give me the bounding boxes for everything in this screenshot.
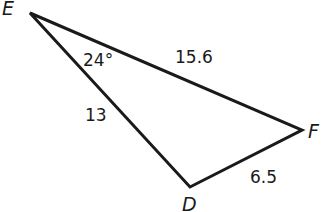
angle-label-e: 24° (83, 50, 113, 70)
triangle-edf (30, 13, 302, 187)
vertex-label-f: F (308, 120, 320, 142)
vertex-label-d: D (182, 193, 197, 212)
side-label-df: 6.5 (250, 167, 277, 187)
triangle-diagram: E F D 24° 15.6 13 6.5 (0, 0, 326, 212)
vertex-label-e: E (2, 0, 14, 19)
side-label-ef: 15.6 (175, 47, 213, 67)
side-label-ed: 13 (85, 105, 107, 125)
